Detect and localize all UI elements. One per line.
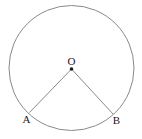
geometry-canvas: O A B (0, 0, 142, 139)
label-point-b: B (113, 114, 120, 126)
label-point-a: A (23, 113, 31, 125)
center-point-dot (70, 67, 74, 71)
label-center-o: O (68, 55, 76, 67)
geometry-figure: O A B (0, 0, 142, 139)
